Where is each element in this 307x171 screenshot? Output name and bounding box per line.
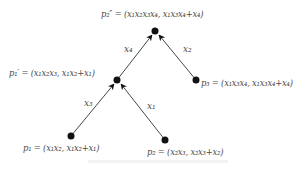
node-p1 [68,133,75,140]
label-p2pp: p₂″ = (x₁x₂x₃x₄, x₁x₃x₄+x₄) [101,9,203,19]
edge-p2-p1p [121,84,165,140]
label-p1p: p₁′ = (x₁x₂x₃, x₁x₂+x₁) [9,68,95,78]
edge-label-x3: x₃ [84,98,93,108]
edge-label-x1: x₁ [147,101,156,111]
label-p2: p₂ = (x₂x₃, x₂x₃+x₂) [147,147,223,157]
label-p1: p₁ = (x₁x₂, x₁x₂+x₁) [23,143,99,153]
edge-label-x4: x₄ [124,44,133,54]
node-p2 [162,137,169,144]
label-p3: p₃ = (x₁x₃x₄, x₁x₃x₄+x₄) [201,78,293,88]
node-p1p [114,77,121,84]
faint-caption [88,160,228,163]
edge-p1-p1p [71,84,114,136]
edge-p1p-p2pp [117,35,152,80]
edge-label-x2: x₂ [183,44,192,54]
edge-p3-p2pp [159,35,196,80]
node-p2pp [152,28,159,35]
node-p3 [193,77,200,84]
